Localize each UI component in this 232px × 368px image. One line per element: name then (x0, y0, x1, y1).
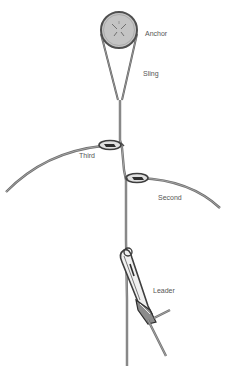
anchor-label: Anchor (145, 30, 167, 37)
anchor-icon (101, 12, 137, 48)
third-label: Third (79, 152, 95, 159)
sling-label: Sling (143, 70, 159, 77)
second-carabiner-icon (126, 174, 148, 183)
leader-label: Leader (153, 287, 175, 294)
second-label: Second (158, 194, 182, 201)
main-rope (120, 100, 127, 366)
climbing-anchor-diagram: Anchor Sling Third Second Leader (0, 0, 232, 368)
second-rope (140, 178, 220, 208)
